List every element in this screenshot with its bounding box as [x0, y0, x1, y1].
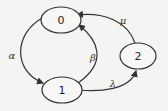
state-diagram: 0 1 2 α β λ μ [0, 0, 168, 111]
edge-1-to-2 [78, 71, 136, 91]
node-2: 2 [120, 43, 156, 69]
edge-label-lambda: λ [109, 78, 116, 89]
edge-label-alpha: α [9, 50, 16, 61]
edge-label-beta: β [89, 52, 96, 63]
node-2-label: 2 [135, 50, 142, 63]
node-0: 0 [41, 7, 81, 33]
edge-2-to-0 [77, 14, 135, 43]
edge-0-to-1 [21, 17, 44, 83]
node-1: 1 [42, 77, 82, 103]
node-0-label: 0 [58, 14, 65, 27]
node-1-label: 1 [59, 84, 66, 97]
edge-label-mu: μ [120, 15, 127, 26]
